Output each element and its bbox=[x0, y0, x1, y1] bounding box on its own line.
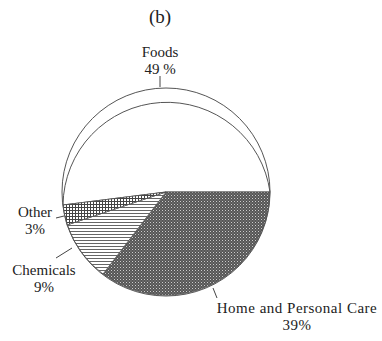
leader-chemicals bbox=[56, 248, 72, 258]
label-other-pct: 3% bbox=[10, 221, 60, 238]
label-chemicals-pct: 9% bbox=[4, 279, 84, 296]
label-other-name: Other bbox=[10, 204, 60, 221]
label-home-pct: 39% bbox=[212, 317, 382, 334]
label-other: Other 3% bbox=[10, 204, 60, 238]
label-foods-pct: 49 % bbox=[120, 61, 200, 78]
label-foods: Foods 49 % bbox=[120, 44, 200, 78]
label-foods-name: Foods bbox=[120, 44, 200, 61]
label-chemicals: Chemicals 9% bbox=[4, 262, 84, 296]
label-home-name: Home and Personal Care bbox=[212, 300, 382, 317]
label-chemicals-name: Chemicals bbox=[4, 262, 84, 279]
label-home-personal-care: Home and Personal Care 39% bbox=[212, 300, 382, 334]
leader-home bbox=[213, 288, 217, 298]
